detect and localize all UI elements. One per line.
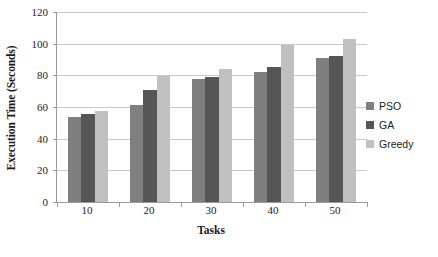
bar-group bbox=[192, 12, 233, 202]
bar-greedy-10 bbox=[95, 111, 109, 202]
bar-group bbox=[254, 12, 295, 202]
y-axis-tick-label: 120 bbox=[32, 6, 49, 18]
x-axis-tick-labels: 1020304050 bbox=[56, 204, 366, 222]
bar-pso-50 bbox=[316, 58, 330, 202]
bar-greedy-50 bbox=[343, 39, 357, 202]
x-axis-tick-label: 30 bbox=[206, 204, 217, 216]
y-axis-tick-label: 60 bbox=[37, 101, 48, 113]
y-axis-tick-label: 0 bbox=[43, 196, 49, 208]
bar-pso-40 bbox=[254, 72, 268, 202]
bars-layer bbox=[57, 12, 367, 202]
bar-pso-10 bbox=[68, 117, 82, 203]
y-axis-tick-labels: 020406080100120 bbox=[22, 12, 52, 202]
y-axis-tick-mark bbox=[53, 107, 57, 108]
y-axis-tick-label: 40 bbox=[37, 133, 48, 145]
legend-item-greedy[interactable]: Greedy bbox=[366, 134, 436, 153]
x-axis-tick-label: 20 bbox=[144, 204, 155, 216]
y-axis-tick-label: 20 bbox=[37, 164, 48, 176]
legend-item-pso[interactable]: PSO bbox=[366, 96, 436, 115]
x-axis-tick-label: 10 bbox=[82, 204, 93, 216]
bar-greedy-40 bbox=[281, 45, 295, 202]
y-axis-tick-mark bbox=[53, 12, 57, 13]
x-axis-tick-mark bbox=[367, 202, 368, 207]
bar-group bbox=[316, 12, 357, 202]
bar-ga-30 bbox=[205, 77, 219, 202]
bar-group bbox=[68, 12, 109, 202]
legend-swatch-icon bbox=[366, 102, 374, 110]
legend-label: Greedy bbox=[379, 138, 413, 150]
y-axis-tick-label: 100 bbox=[32, 38, 49, 50]
y-axis-tick-mark bbox=[53, 170, 57, 171]
bar-ga-20 bbox=[143, 90, 157, 202]
y-axis-title: Execution Time (Seconds) bbox=[0, 0, 22, 215]
bar-greedy-30 bbox=[219, 69, 233, 202]
y-axis-tick-mark bbox=[53, 139, 57, 140]
x-axis-tick-label: 50 bbox=[330, 204, 341, 216]
bar-group bbox=[130, 12, 171, 202]
legend-item-ga[interactable]: GA bbox=[366, 115, 436, 134]
bar-ga-50 bbox=[329, 56, 343, 202]
plot-area bbox=[56, 12, 367, 203]
y-axis-tick-mark bbox=[53, 75, 57, 76]
legend-label: PSO bbox=[379, 100, 401, 112]
bar-pso-30 bbox=[192, 79, 206, 202]
x-axis-title: Tasks bbox=[56, 224, 366, 236]
bar-chart: Execution Time (Seconds) 020406080100120… bbox=[0, 0, 438, 257]
legend-label: GA bbox=[379, 119, 394, 131]
x-axis-tick-label: 40 bbox=[268, 204, 279, 216]
chart-legend: PSOGAGreedy bbox=[366, 96, 436, 153]
y-axis-tick-mark bbox=[53, 44, 57, 45]
bar-ga-40 bbox=[267, 67, 281, 202]
legend-swatch-icon bbox=[366, 140, 374, 148]
bar-ga-10 bbox=[81, 114, 95, 202]
legend-swatch-icon bbox=[366, 121, 374, 129]
bar-pso-20 bbox=[130, 105, 144, 202]
bar-greedy-20 bbox=[157, 76, 171, 202]
y-axis-title-text: Execution Time (Seconds) bbox=[5, 45, 17, 170]
y-axis-tick-label: 80 bbox=[37, 69, 48, 81]
